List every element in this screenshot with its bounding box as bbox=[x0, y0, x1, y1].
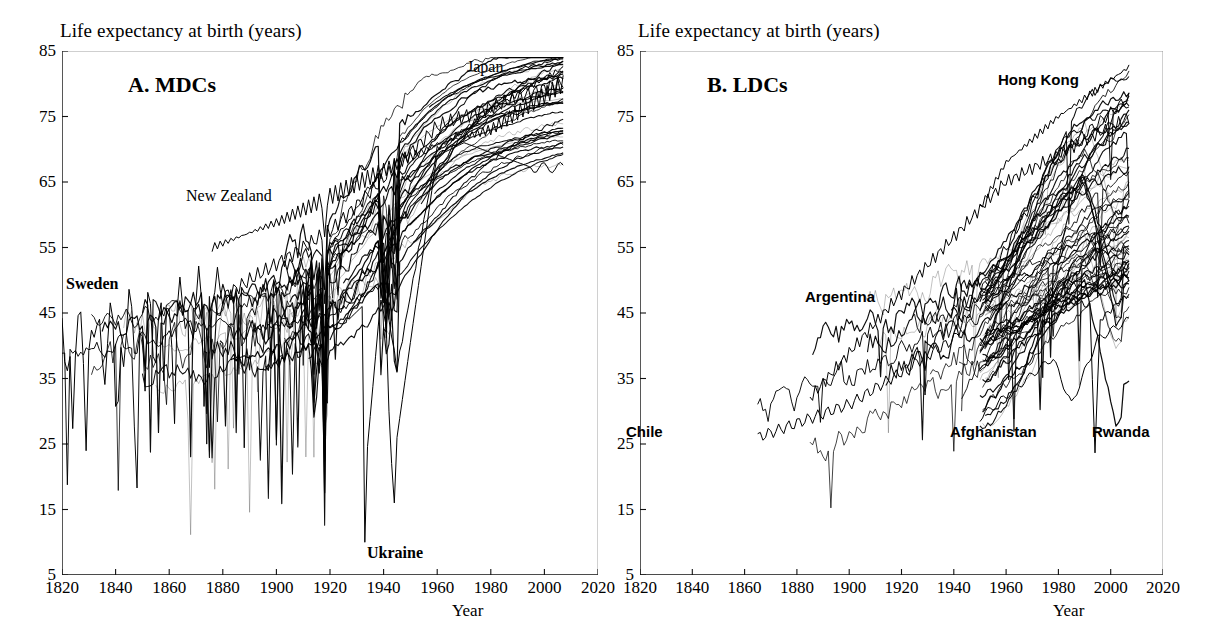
x-axis-title-a: Year bbox=[452, 601, 483, 621]
y-tick-label: 55 bbox=[600, 238, 634, 258]
x-tick-label: 2000 bbox=[1081, 578, 1141, 598]
annotation-ukraine: Ukraine bbox=[367, 545, 423, 561]
x-tick-label: 1860 bbox=[715, 578, 775, 598]
annotation-afghanistan: Afghanistan bbox=[950, 424, 1037, 439]
y-tick-label: 15 bbox=[22, 500, 56, 520]
y-tick-label: 25 bbox=[600, 434, 634, 454]
x-tick-label: 2000 bbox=[514, 578, 574, 598]
y-axis-title-a: Life expectancy at birth (years) bbox=[60, 20, 302, 42]
y-tick-label: 35 bbox=[22, 369, 56, 389]
x-tick-label: 1840 bbox=[662, 578, 722, 598]
x-tick-label: 1940 bbox=[924, 578, 984, 598]
x-tick-label: 1960 bbox=[407, 578, 467, 598]
series-line bbox=[980, 158, 1129, 354]
y-tick-label: 15 bbox=[600, 500, 634, 520]
y-axis-title-b: Life expectancy at birth (years) bbox=[638, 20, 880, 42]
series-line bbox=[397, 154, 563, 275]
series-lines bbox=[758, 65, 1129, 508]
annotation-hong-kong: Hong Kong bbox=[998, 72, 1079, 87]
panel-title-b: B. LDCs bbox=[707, 72, 788, 98]
lines-ldcs bbox=[640, 51, 1163, 575]
y-tick-label: 45 bbox=[22, 303, 56, 323]
x-tick-label: 1940 bbox=[354, 578, 414, 598]
y-tick-label: 45 bbox=[600, 303, 634, 323]
x-tick-label: 1900 bbox=[819, 578, 879, 598]
annotation-rwanda: Rwanda bbox=[1092, 424, 1150, 439]
y-tick-label: 35 bbox=[600, 369, 634, 389]
plot-area-ldcs bbox=[640, 51, 1163, 575]
y-tick-label: 65 bbox=[22, 172, 56, 192]
x-tick-label: 1860 bbox=[139, 578, 199, 598]
y-tick-label: 85 bbox=[600, 41, 634, 61]
x-tick-label: 1880 bbox=[767, 578, 827, 598]
annotation-argentina: Argentina bbox=[805, 289, 875, 304]
x-tick-label: 1960 bbox=[976, 578, 1036, 598]
annotation-sweden: Sweden bbox=[66, 276, 118, 292]
y-tick-label: 25 bbox=[22, 434, 56, 454]
x-tick-label: 1820 bbox=[32, 578, 92, 598]
panel-mdcs: Life expectancy at birth (years) A. MDCs… bbox=[0, 0, 605, 640]
annotation-new-zealand: New Zealand bbox=[186, 188, 272, 204]
x-tick-label: 1880 bbox=[193, 578, 253, 598]
series-line bbox=[980, 317, 1129, 421]
x-tick-label: 1980 bbox=[1028, 578, 1088, 598]
lines-mdcs bbox=[62, 51, 598, 575]
x-tick-label: 2020 bbox=[1133, 578, 1193, 598]
axis-frame bbox=[640, 51, 1163, 575]
x-tick-label: 1920 bbox=[300, 578, 360, 598]
y-tick-label: 85 bbox=[22, 41, 56, 61]
x-tick-label: 1980 bbox=[461, 578, 521, 598]
y-tick-label: 75 bbox=[22, 107, 56, 127]
panel-title-a: A. MDCs bbox=[128, 72, 216, 98]
annotation-japan: Japan bbox=[467, 59, 503, 75]
x-tick-label: 1900 bbox=[246, 578, 306, 598]
y-tick-label: 55 bbox=[22, 238, 56, 258]
series-line bbox=[405, 112, 563, 181]
plot-area-mdcs bbox=[62, 51, 598, 575]
y-tick-label: 75 bbox=[600, 107, 634, 127]
panel-ldcs: Life expectancy at birth (years) B. LDCs… bbox=[605, 0, 1210, 640]
x-tick-label: 1920 bbox=[872, 578, 932, 598]
x-tick-label: 1820 bbox=[610, 578, 670, 598]
y-tick-label: 65 bbox=[600, 172, 634, 192]
x-axis-title-b: Year bbox=[1053, 601, 1084, 621]
x-tick-label: 1840 bbox=[86, 578, 146, 598]
series-lines bbox=[62, 58, 563, 543]
